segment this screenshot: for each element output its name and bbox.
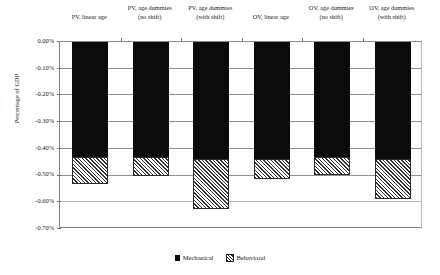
bar-segment-mechanical: [193, 41, 229, 159]
solid-black-swatch: [175, 255, 181, 261]
category-label-line1: OV, age dummies: [356, 4, 428, 13]
gridline: [60, 201, 422, 202]
bar-group: [133, 41, 169, 176]
y-axis-tick-label: -0.30%: [8, 118, 54, 124]
bar-segment-mechanical: [375, 41, 411, 159]
y-axis-tick-label: -0.20%: [8, 91, 54, 97]
y-axis-tick: [57, 121, 61, 122]
y-axis-tick-label: -0.40%: [8, 145, 54, 151]
chart-legend: MechanicalBehavioral: [0, 254, 440, 262]
gridline: [60, 148, 422, 149]
y-axis-tick-label: -0.10%: [8, 65, 54, 71]
y-axis-title: Percentage of GDP: [13, 44, 20, 154]
legend-label: Behavioral: [236, 254, 265, 261]
bar-segment-behavioral: [314, 157, 350, 174]
bar-chart: Percentage of GDP PV, linear agePV, age …: [0, 0, 440, 275]
plot-top-border: [59, 41, 422, 42]
y-axis-tick: [57, 228, 61, 229]
y-axis-tick-label: -0.50%: [8, 171, 54, 177]
y-axis-tick-label: 0.00%: [8, 38, 54, 44]
bar-segment-behavioral: [193, 159, 229, 210]
bar-group: [314, 41, 350, 175]
category-label-6: OV, age dummies(with shift): [356, 4, 428, 21]
bar-segment-behavioral: [375, 159, 411, 199]
hatched-swatch: [226, 254, 234, 262]
bar-segment-behavioral: [254, 159, 290, 179]
y-axis-tick-label: -0.60%: [8, 198, 54, 204]
gridline: [60, 175, 422, 176]
bar-segment-behavioral: [72, 157, 108, 184]
legend-item: Mechanical: [175, 254, 214, 261]
legend-label: Mechanical: [183, 254, 214, 261]
bar-segment-mechanical: [72, 41, 108, 157]
legend-item: Behavioral: [226, 254, 265, 262]
y-axis-tick: [57, 201, 61, 202]
bar-group: [375, 41, 411, 199]
bar-group: [193, 41, 229, 209]
bar-segment-mechanical: [254, 41, 290, 159]
y-axis-tick: [57, 94, 61, 95]
y-axis-tick: [57, 68, 61, 69]
y-axis-tick: [57, 175, 61, 176]
plot-area: [59, 41, 422, 228]
bar-group: [72, 41, 108, 184]
y-axis-tick-label: -0.70%: [8, 225, 54, 231]
gridline: [60, 121, 422, 122]
plot-right-border: [421, 41, 422, 229]
category-label-row: PV, linear agePV, age dummies(no shift)P…: [59, 4, 422, 38]
gridline: [60, 68, 422, 69]
y-axis-tick: [57, 148, 61, 149]
gridline: [60, 94, 422, 95]
bar-segment-mechanical: [133, 41, 169, 157]
bar-segment-mechanical: [314, 41, 350, 157]
bar-segment-behavioral: [133, 157, 169, 176]
bar-group: [254, 41, 290, 179]
category-label-line2: (with shift): [356, 13, 428, 22]
